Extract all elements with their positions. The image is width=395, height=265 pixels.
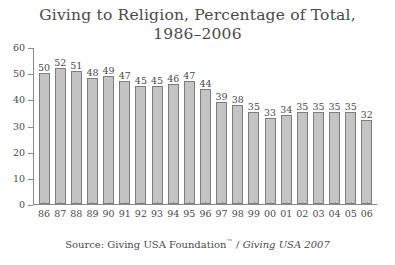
bar-value-label: 45 <box>151 76 163 86</box>
x-axis-tick-label: 03 <box>310 205 326 219</box>
x-axis-tick-slot: 99 <box>246 205 262 219</box>
x-axis-tick-label: 97 <box>214 205 230 219</box>
x-axis-tick-label: 91 <box>117 205 133 219</box>
x-axis-tick <box>141 202 142 205</box>
x-axis-tick-label: 90 <box>101 205 117 219</box>
x-axis-tick-label: 89 <box>84 205 100 219</box>
x-axis-tick <box>335 202 336 205</box>
y-axis-tick-label: 20 <box>13 148 25 158</box>
x-axis-tick-slot: 04 <box>327 205 343 219</box>
bar: 32 <box>361 120 372 204</box>
source-publication: Giving USA 2007 <box>243 239 330 250</box>
bar: 48 <box>87 78 98 204</box>
plot-area: 6050403020100 50525148494745454647443938… <box>33 48 377 205</box>
x-axis-tick <box>125 202 126 205</box>
x-axis-tick-slot: 90 <box>101 205 117 219</box>
bar-value-label: 45 <box>135 76 147 86</box>
x-axis-tick-label: 92 <box>133 205 149 219</box>
x-axis-tick <box>254 202 255 205</box>
x-axis-tick-label: 87 <box>52 205 68 219</box>
bar: 38 <box>232 105 243 204</box>
x-axis-tick <box>302 202 303 205</box>
bar-value-label: 51 <box>70 61 82 71</box>
x-axis-tick-slot: 92 <box>133 205 149 219</box>
x-axis-tick-label: 02 <box>294 205 310 219</box>
chart-figure: Giving to Religion, Percentage of Total,… <box>0 0 395 265</box>
x-axis-tick-label: 98 <box>230 205 246 219</box>
x-axis-tick-slot: 95 <box>181 205 197 219</box>
x-axis: 8687888990919293949596979899000102030405… <box>34 205 377 219</box>
x-axis-tick-slot: 00 <box>262 205 278 219</box>
bar-value-label: 35 <box>312 102 324 112</box>
bar-value-label: 44 <box>199 79 211 89</box>
y-axis-tick-label: 50 <box>13 69 25 79</box>
y-axis-tick-label: 10 <box>13 174 25 184</box>
bar: 35 <box>329 112 340 204</box>
y-axis-tick <box>28 205 33 206</box>
y-axis-tick-label: 0 <box>19 200 25 210</box>
bar-slot: 51 <box>68 48 84 204</box>
y-axis-tick-label: 60 <box>13 43 25 53</box>
bar: 52 <box>55 68 66 204</box>
x-axis-tick <box>76 202 77 205</box>
bar: 51 <box>71 71 82 204</box>
bar-slot: 46 <box>165 48 181 204</box>
x-axis-tick-label: 99 <box>246 205 262 219</box>
y-axis-tick <box>28 100 33 101</box>
x-axis-tick <box>367 202 368 205</box>
x-axis-tick-slot: 05 <box>343 205 359 219</box>
bar-slot: 35 <box>310 48 326 204</box>
source-prefix: Source: Giving USA Foundation <box>65 239 226 250</box>
x-axis-tick-slot: 01 <box>278 205 294 219</box>
bar: 49 <box>103 76 114 204</box>
chart-title-line-1: Giving to Religion, Percentage of Total, <box>0 6 395 25</box>
bar: 35 <box>248 112 259 204</box>
bar-slot: 52 <box>52 48 68 204</box>
bar-slot: 34 <box>278 48 294 204</box>
bar: 46 <box>168 84 179 204</box>
bar-slot: 45 <box>133 48 149 204</box>
bar-value-label: 50 <box>38 63 50 73</box>
bar-value-label: 35 <box>345 102 357 112</box>
bar: 35 <box>313 112 324 204</box>
x-axis-tick-label: 94 <box>165 205 181 219</box>
x-axis-tick <box>173 202 174 205</box>
bar-slot: 50 <box>36 48 52 204</box>
bar-slot: 35 <box>294 48 310 204</box>
x-axis-tick-label: 06 <box>359 205 375 219</box>
y-axis-tick <box>28 153 33 154</box>
x-axis-tick <box>222 202 223 205</box>
bar-value-label: 47 <box>119 71 131 81</box>
x-axis-tick <box>60 202 61 205</box>
x-axis-tick-slot: 03 <box>310 205 326 219</box>
x-axis-tick-slot: 96 <box>197 205 213 219</box>
x-axis-tick <box>238 202 239 205</box>
bar: 47 <box>119 81 130 204</box>
x-axis-tick <box>44 202 45 205</box>
bar-value-label: 35 <box>296 102 308 112</box>
x-axis-tick <box>109 202 110 205</box>
x-axis-tick-label: 93 <box>149 205 165 219</box>
x-axis-tick-slot: 02 <box>294 205 310 219</box>
bar-slot: 47 <box>181 48 197 204</box>
y-axis-tick <box>28 48 33 49</box>
x-axis-tick-slot: 94 <box>165 205 181 219</box>
bar: 35 <box>297 112 308 204</box>
y-axis-tick-label: 40 <box>13 95 25 105</box>
bar: 45 <box>152 86 163 204</box>
bar-slot: 33 <box>262 48 278 204</box>
x-axis-tick-label: 00 <box>262 205 278 219</box>
bar-value-label: 49 <box>103 66 115 76</box>
y-axis-tick <box>28 74 33 75</box>
bar-value-label: 35 <box>329 102 341 112</box>
bar-series: 5052514849474545464744393835333435353535… <box>34 48 377 204</box>
bar: 34 <box>281 115 292 204</box>
x-axis-tick-slot: 91 <box>117 205 133 219</box>
x-axis-tick-label: 05 <box>343 205 359 219</box>
bar-slot: 45 <box>149 48 165 204</box>
x-axis-tick <box>270 202 271 205</box>
x-axis-tick-slot: 86 <box>36 205 52 219</box>
x-axis-tick-slot: 93 <box>149 205 165 219</box>
x-axis-tick <box>286 202 287 205</box>
bar-slot: 47 <box>117 48 133 204</box>
